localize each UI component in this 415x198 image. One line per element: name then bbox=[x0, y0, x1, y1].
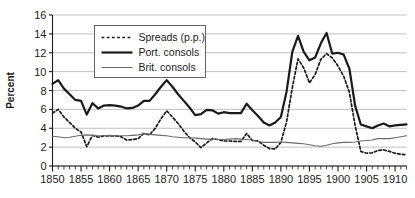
x-tick-label: 1910 bbox=[383, 173, 407, 185]
x-tick-label: 1865 bbox=[126, 173, 150, 185]
y-tick-label: 14 bbox=[34, 28, 46, 40]
y-axis-ticks: 0246810121416 bbox=[34, 9, 52, 172]
y-tick-label: 4 bbox=[40, 122, 46, 134]
legend-label-1: Spreads (p.p.) bbox=[139, 31, 206, 43]
y-axis-title: Percent bbox=[5, 71, 16, 108]
series-line-brit-consols bbox=[53, 134, 407, 146]
x-tick-label: 1900 bbox=[326, 173, 350, 185]
legend-label-2: Port. consols bbox=[139, 46, 200, 58]
chart-container: 0246810121416185018551860186518701875188… bbox=[0, 0, 415, 198]
x-tick-label: 1895 bbox=[297, 173, 321, 185]
x-tick-label: 1850 bbox=[40, 173, 64, 185]
y-tick-label: 10 bbox=[34, 66, 46, 78]
y-tick-label: 8 bbox=[40, 85, 46, 97]
x-tick-label: 1875 bbox=[183, 173, 207, 185]
legend-label-3: Brit. consols bbox=[139, 61, 196, 73]
x-tick-label: 1870 bbox=[154, 173, 178, 185]
x-tick-label: 1905 bbox=[354, 173, 378, 185]
y-tick-label: 6 bbox=[40, 103, 46, 115]
x-tick-label: 1890 bbox=[269, 173, 293, 185]
x-tick-label: 1885 bbox=[240, 173, 264, 185]
x-tick-label: 1860 bbox=[97, 173, 121, 185]
y-tick-label: 16 bbox=[34, 9, 46, 21]
x-axis-labels: 1850185518601865187018751880188518901895… bbox=[40, 173, 407, 185]
x-tick-label: 1855 bbox=[69, 173, 93, 185]
x-axis-minor-ticks bbox=[53, 166, 407, 172]
line-chart: 0246810121416185018551860186518701875188… bbox=[0, 0, 415, 198]
y-tick-label: 12 bbox=[34, 47, 46, 59]
y-tick-label: 2 bbox=[40, 141, 46, 153]
y-tick-label: 0 bbox=[40, 160, 46, 172]
x-tick-label: 1880 bbox=[212, 173, 236, 185]
legend: Spreads (p.p.)Port. consolsBrit. consols bbox=[95, 26, 206, 78]
